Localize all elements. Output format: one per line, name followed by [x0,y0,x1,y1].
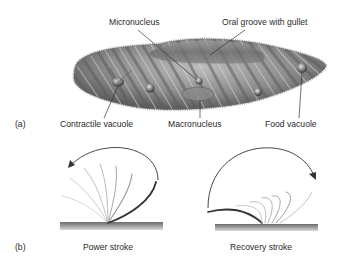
diagram-canvas [0,0,343,262]
label-power-stroke: Power stroke [83,242,133,252]
label-food-vacuole: Food vacuole [265,119,317,129]
label-recovery-stroke: Recovery stroke [230,242,292,252]
cell-surface-recovery [215,224,318,231]
food-vacuole [297,63,307,73]
label-oral-groove: Oral groove with gullet [222,17,308,27]
label-micronucleus: Micronucleus [109,17,160,27]
macronucleus [182,87,214,101]
vacuole [146,84,155,93]
power-stroke-diagram [60,147,163,230]
micronucleus [195,77,202,84]
arrow-head-icon [68,160,75,168]
panel-a-tag: (a) [15,119,26,129]
cell-surface-power [60,222,163,230]
label-contractile-vacuole: Contractile vacuole [60,119,133,129]
label-macronucleus: Macronucleus [168,119,222,129]
panel-b-tag: (b) [15,242,26,252]
recovery-stroke-diagram [208,148,318,231]
vacuole [254,88,262,96]
arrow-head-icon [309,172,316,180]
